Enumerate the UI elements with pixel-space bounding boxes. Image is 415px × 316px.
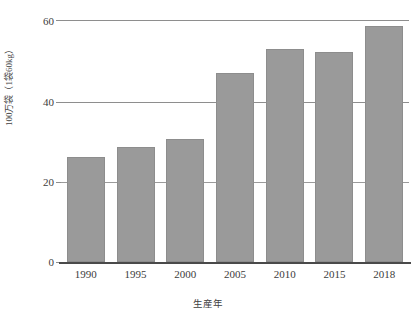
y-tick-label-20: 20: [30, 176, 54, 188]
y-tick-label-0: 0: [30, 256, 54, 268]
x-tick-label-1990: 1990: [62, 268, 110, 280]
y-tick-label-40: 40: [30, 96, 54, 108]
bar-2005[interactable]: [216, 73, 254, 262]
x-tick-label-2015: 2015: [310, 268, 358, 280]
bar-2000[interactable]: [166, 139, 204, 262]
bar-2010[interactable]: [266, 49, 304, 262]
x-tick-label-2000: 2000: [161, 268, 209, 280]
bar-1990[interactable]: [67, 157, 105, 262]
bar-series: [61, 14, 409, 264]
bar-2018[interactable]: [365, 26, 403, 262]
y-tick-label-60: 60: [30, 15, 54, 27]
bar-chart: 100万袋（1袋60kg） 60 40 20 0 1990 1995 2000 …: [0, 0, 415, 316]
bar-2015[interactable]: [315, 52, 353, 262]
bar-1995[interactable]: [117, 147, 155, 262]
x-axis-tick-labels: 1990 1995 2000 2005 2010 2015 2018: [61, 268, 409, 286]
x-axis-title: 生産年: [0, 296, 415, 310]
y-axis-title: 100万袋（1袋60kg）: [2, 26, 18, 126]
x-tick-label-2010: 2010: [261, 268, 309, 280]
x-tick-label-1995: 1995: [112, 268, 160, 280]
x-tick-label-2005: 2005: [211, 268, 259, 280]
x-tick-label-2018: 2018: [360, 268, 408, 280]
